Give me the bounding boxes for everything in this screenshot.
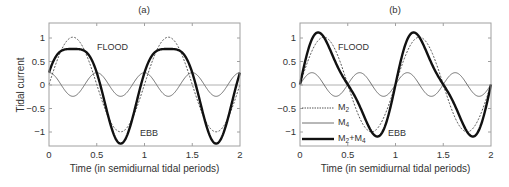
panel-a-ytick-label: −1 [34,126,45,137]
legend-item-m2: M2 [302,102,350,113]
panel-b-xtick-label: 0 [297,149,302,160]
legend-label-sum: M2+M4 [338,133,366,144]
panel-b: (b) 1 0.5 0 −0.5 −1 0 0.5 1 1.5 2 Time (… [277,4,493,174]
panel-a-xtick-label: 0 [46,149,51,160]
panel-a: (a) 1 0.5 0 −0.5 −1 0 0.5 1 1.5 2 Time (… [15,4,243,174]
panel-a-xtick-label: 1.5 [186,149,199,160]
panel-b-legend: M2 M4 M2+M4 [302,102,366,144]
panel-b-title: (b) [389,4,401,15]
panel-a-ylabel: Tidal current [15,57,26,112]
panel-b-ytick-label: 0.5 [283,56,296,67]
panel-a-xtick-label: 2 [237,149,242,160]
legend-label-m4: M4 [338,117,350,128]
panel-b-xtick-label: 1 [393,149,398,160]
panel-b-ytick-label: −0.5 [277,103,296,114]
legend-item-m4: M4 [302,117,350,128]
panel-b-xtick-label: 2 [488,149,493,160]
panel-a-xlabel: Time (in semidiurnal tidal periods) [70,163,220,174]
panel-b-flood-label: FLOOD [338,42,370,52]
panel-b-ebb-label: EBB [388,128,406,138]
panel-a-ytick-label: 0 [40,79,45,90]
panel-a-ytick-label: 0.5 [32,56,45,67]
figure: (a) 1 0.5 0 −0.5 −1 0 0.5 1 1.5 2 Time (… [0,0,509,187]
panel-a-ebb-label: EBB [140,128,158,138]
panel-a-title: (a) [138,4,150,15]
panel-b-xlabel: Time (in semidiurnal tidal periods) [321,163,471,174]
panel-a-ytick-label: 1 [40,32,45,43]
panel-a-xtick-label: 0.5 [90,149,103,160]
panel-b-xtick-label: 0.5 [341,149,354,160]
panel-a-flood-label: FLOOD [97,42,129,52]
panel-b-ytick-label: −1 [285,126,296,137]
panel-b-xtick-label: 1.5 [437,149,450,160]
legend-item-m2-plus-m4: M2+M4 [302,133,366,144]
panel-a-xtick-label: 1 [142,149,147,160]
panel-b-ytick-label: 1 [291,32,296,43]
panel-b-ytick-label: 0 [291,79,296,90]
panel-a-ytick-label: −0.5 [26,103,45,114]
legend-label-m2: M2 [338,102,350,113]
